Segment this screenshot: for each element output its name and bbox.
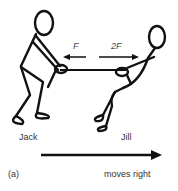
name-label-jill: Jill xyxy=(121,132,132,142)
jack-head xyxy=(35,11,53,35)
panel-label: (a) xyxy=(8,169,19,179)
jill-figure xyxy=(95,26,165,131)
tug-of-war-diagram xyxy=(0,0,178,191)
jack-figure xyxy=(13,11,67,124)
motion-arrow xyxy=(41,150,162,160)
arrow-left-icon xyxy=(63,54,70,60)
force-arrows xyxy=(63,54,139,60)
force-label-f: F xyxy=(73,41,79,51)
arrow-right-icon xyxy=(151,150,162,160)
arrow-right-icon xyxy=(132,54,139,60)
jill-head xyxy=(149,26,165,48)
name-label-jack: Jack xyxy=(19,132,38,142)
force-label-2f: 2F xyxy=(111,41,122,51)
motion-label: moves right xyxy=(104,169,151,179)
